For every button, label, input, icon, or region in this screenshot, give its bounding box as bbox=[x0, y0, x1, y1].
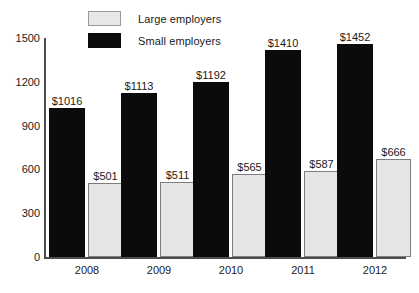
bar-label-large-2009: $511 bbox=[166, 169, 190, 181]
bar-large-employers-2011: $587 bbox=[304, 171, 339, 257]
x-tick-2010: 2010 bbox=[219, 264, 243, 276]
bar-small-employers-2012: $1452 bbox=[337, 44, 373, 258]
bar-large-employers-2009: $511 bbox=[160, 182, 195, 257]
y-axis-line bbox=[44, 38, 46, 259]
bar-label-large-2010: $565 bbox=[237, 161, 261, 173]
y-tick-300: 300 bbox=[6, 207, 40, 219]
bar-small-employers-2011: $1410 bbox=[265, 50, 301, 257]
bar-large-employers-2010: $565 bbox=[232, 174, 267, 257]
bar-label-small-2010: $1192 bbox=[196, 69, 226, 81]
y-tick-0: 0 bbox=[6, 251, 40, 263]
x-axis-line bbox=[44, 257, 406, 259]
y-tick-600: 600 bbox=[6, 163, 40, 175]
plot-area: $1016 $501 $1113 $511 $1192 $565 $1410 $… bbox=[44, 38, 406, 259]
x-tick-2009: 2009 bbox=[147, 264, 171, 276]
bar-small-employers-2009: $1113 bbox=[121, 93, 157, 257]
y-tick-900: 900 bbox=[6, 120, 40, 132]
bar-large-employers-2008: $501 bbox=[88, 183, 123, 257]
x-tick-2012: 2012 bbox=[363, 264, 387, 276]
bar-large-employers-2012: $666 bbox=[376, 159, 411, 257]
x-tick-2008: 2008 bbox=[75, 264, 99, 276]
bar-label-large-2012: $666 bbox=[381, 146, 405, 158]
y-tick-1500: 1500 bbox=[6, 32, 40, 44]
bar-label-small-2012: $1452 bbox=[340, 31, 371, 43]
bar-label-large-2011: $587 bbox=[309, 158, 333, 170]
bar-label-small-2009: $1113 bbox=[125, 80, 154, 92]
x-tick-2011: 2011 bbox=[291, 264, 315, 276]
bar-chart: Large employers Small employers 1500 120… bbox=[0, 0, 419, 293]
bar-small-employers-2008: $1016 bbox=[49, 108, 85, 257]
y-tick-1200: 1200 bbox=[6, 76, 40, 88]
y-axis-tick-labels: 1500 1200 900 600 300 0 bbox=[0, 38, 40, 259]
legend-label-large-employers: Large employers bbox=[138, 13, 221, 25]
bar-label-small-2011: $1410 bbox=[268, 37, 299, 49]
bar-small-employers-2010: $1192 bbox=[193, 82, 229, 257]
bar-label-small-2008: $1016 bbox=[52, 95, 83, 107]
legend-swatch-large-employers bbox=[88, 11, 121, 26]
legend-item-large-employers: Large employers bbox=[88, 10, 221, 27]
bar-label-large-2008: $501 bbox=[93, 170, 117, 182]
